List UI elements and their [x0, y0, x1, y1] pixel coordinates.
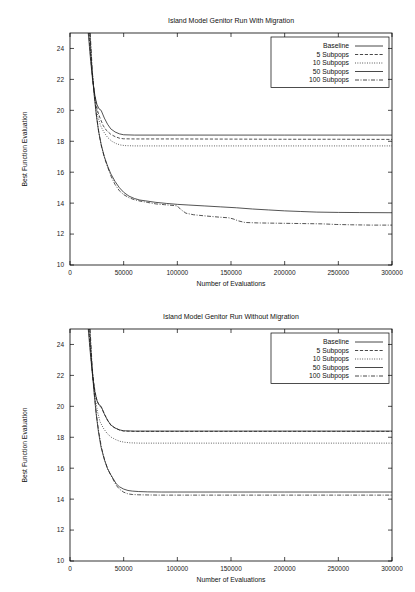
- y-tick-label: 14: [57, 200, 65, 207]
- x-tick-label: 200000: [274, 269, 296, 276]
- legend-label: 100 Subpops: [309, 372, 350, 380]
- x-tick-label: 250000: [327, 565, 349, 572]
- series-line: [90, 329, 392, 495]
- x-tick-label: 0: [68, 269, 72, 276]
- y-tick-label: 24: [57, 45, 65, 52]
- x-tick-label: 50000: [115, 269, 133, 276]
- y-tick-label: 22: [57, 76, 65, 83]
- chart-without-migration: Island Model Genitor Run Without Migrati…: [0, 296, 415, 592]
- y-tick-label: 20: [57, 107, 65, 114]
- y-tick-label: 12: [57, 230, 65, 237]
- x-axis-title: Number of Evaluations: [197, 280, 266, 287]
- legend-label: 5 Subpops: [316, 51, 349, 59]
- x-tick-label: 150000: [220, 269, 242, 276]
- x-tick-label: 100000: [166, 565, 188, 572]
- chart-with-migration: Island Model Genitor Run With Migration0…: [0, 0, 415, 296]
- figure-page: Island Model Genitor Run With Migration0…: [0, 0, 415, 592]
- chart-svg: Island Model Genitor Run With Migration0…: [0, 0, 415, 296]
- x-tick-label: 250000: [327, 269, 349, 276]
- series-group: [88, 329, 392, 495]
- chart-title: Island Model Genitor Run With Migration: [168, 17, 294, 25]
- y-tick-label: 24: [57, 341, 65, 348]
- y-tick-label: 16: [57, 169, 65, 176]
- x-axis-title: Number of Evaluations: [197, 576, 266, 583]
- y-tick-label: 14: [57, 496, 65, 503]
- legend-label: 10 Subpops: [313, 355, 350, 363]
- chart-svg: Island Model Genitor Run Without Migrati…: [0, 296, 415, 592]
- x-tick-label: 300000: [381, 269, 403, 276]
- legend-label: 5 Subpops: [316, 347, 349, 355]
- chart-title: Island Model Genitor Run Without Migrati…: [163, 313, 299, 321]
- legend-label: Baseline: [323, 42, 349, 49]
- x-tick-label: 50000: [115, 565, 133, 572]
- y-tick-label: 18: [57, 138, 65, 145]
- x-tick-label: 100000: [166, 269, 188, 276]
- y-axis-title: Best Function Evaluation: [21, 407, 28, 482]
- legend-label: Baseline: [323, 338, 349, 345]
- y-tick-label: 10: [57, 261, 65, 268]
- y-tick-label: 20: [57, 403, 65, 410]
- legend-label: 50 Subpops: [313, 364, 350, 372]
- y-tick-label: 16: [57, 465, 65, 472]
- y-axis-title: Best Function Evaluation: [21, 111, 28, 186]
- x-tick-label: 150000: [220, 565, 242, 572]
- x-tick-label: 300000: [381, 565, 403, 572]
- legend-label: 100 Subpops: [309, 76, 350, 84]
- legend-label: 10 Subpops: [313, 59, 350, 67]
- legend-label: 50 Subpops: [313, 68, 350, 76]
- x-tick-label: 0: [68, 565, 72, 572]
- y-tick-label: 18: [57, 434, 65, 441]
- y-tick-label: 10: [57, 557, 65, 564]
- y-tick-label: 22: [57, 372, 65, 379]
- x-tick-label: 200000: [274, 565, 296, 572]
- y-tick-label: 12: [57, 526, 65, 533]
